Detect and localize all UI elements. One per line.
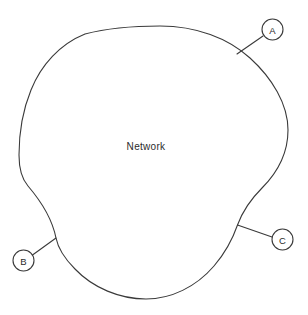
leader-line-a (237, 36, 263, 54)
leader-line-b (33, 238, 57, 255)
network-diagram-canvas: A B C Network (0, 0, 308, 315)
node-label-c: C (279, 235, 286, 246)
node-label-b: B (20, 256, 27, 267)
network-region-label: Network (127, 141, 166, 152)
network-diagram-svg: A B C Network (0, 0, 308, 315)
network-boundary-shape (19, 26, 288, 299)
node-label-a: A (269, 25, 276, 36)
leader-line-c (238, 225, 273, 237)
